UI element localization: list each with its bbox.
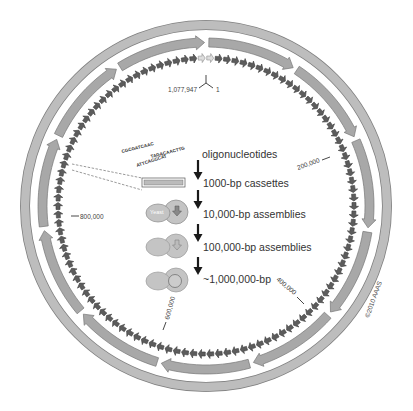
yeast-label: Yeast	[150, 209, 164, 215]
step-oligonucleotides: oligonucleotides	[202, 148, 277, 160]
marker-200k: 200,000	[296, 156, 330, 171]
cassette-zoom-lines	[72, 164, 142, 190]
origin-marker	[199, 75, 213, 88]
cassette-box	[142, 178, 185, 187]
marker-600k: 600,000	[163, 295, 176, 330]
marker-400k: 400,000	[275, 275, 304, 304]
step-1000000bp: ~1,000,000-bp	[203, 273, 271, 285]
step-100000bp: 100,000-bp assemblies	[203, 241, 312, 253]
genome-circle-icon	[169, 275, 182, 288]
inner-genome-ring	[54, 54, 359, 359]
oligonucleotide-sequences: CGCGATCAAC TAGACAACTTG ATTCAGGCAT	[121, 141, 186, 168]
svg-text:600,000: 600,000	[163, 295, 176, 320]
marker-1: 1	[216, 86, 220, 93]
genome-diagram: 1,077,947 1 200,000 400,000 600,000 800,…	[0, 0, 413, 411]
step-10000bp: 10,000-bp assemblies	[203, 208, 306, 220]
yeast-cell-3	[146, 268, 188, 292]
marker-1077947: 1,077,947	[168, 86, 197, 93]
yeast-cell-1: Yeast	[146, 200, 188, 224]
svg-text:800,000: 800,000	[80, 213, 104, 220]
svg-text:CGCGATCAAC: CGCGATCAAC	[121, 141, 155, 154]
marker-800k: 800,000	[71, 213, 104, 220]
middle-ring	[38, 36, 376, 374]
step-arrows	[194, 160, 203, 275]
svg-text:400,000: 400,000	[275, 275, 298, 296]
svg-text:200,000: 200,000	[296, 156, 321, 171]
yeast-cell-2	[146, 234, 188, 258]
step-1000bp: 1000-bp cassettes	[203, 177, 289, 189]
